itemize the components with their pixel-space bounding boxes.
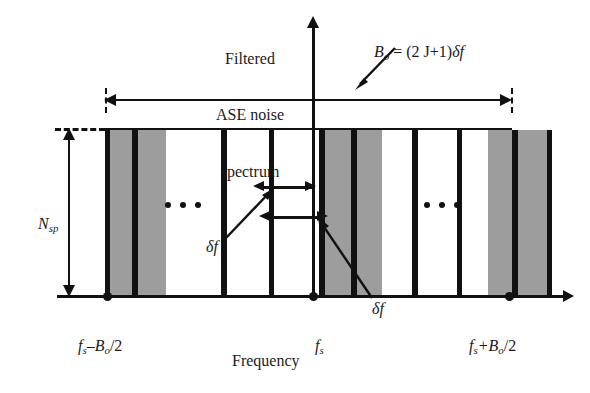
spectrum-band-gray-20 xyxy=(518,130,547,297)
tick-left-tail: /2 xyxy=(110,337,122,354)
spectrum-band-gray-1 xyxy=(110,130,132,297)
axis-tick-dot-right xyxy=(505,292,514,301)
axis-tick-dot-left xyxy=(103,292,112,301)
nsp-arrowhead-top xyxy=(63,128,75,140)
ellipsis-dot xyxy=(454,202,460,208)
tick-label-center: fs xyxy=(299,318,324,376)
bandwidth-label: Bo = (2 J+1)δf xyxy=(358,24,464,82)
ellipsis-dot xyxy=(165,202,171,208)
ellipsis-dot xyxy=(424,202,430,208)
bandwidth-arrowhead-left xyxy=(104,94,116,106)
spectrum-band-gray-18 xyxy=(488,130,512,297)
frequency-axis-label: Frequency xyxy=(232,352,300,371)
tick-label-right: fs+Bo/2 xyxy=(453,318,516,376)
nsp-symbol-subscript: sp xyxy=(49,222,59,234)
figure-canvas: Filtered ASE noise spectrum Bo = (2 J+1)… xyxy=(0,0,590,393)
spectrum-band-white-15 xyxy=(418,130,457,297)
nsp-arrowhead-bottom xyxy=(63,285,75,297)
caption-line-1: Filtered xyxy=(186,50,314,69)
nsp-span-line xyxy=(68,132,70,295)
caption-line-3: spectrum xyxy=(186,163,314,182)
delta-f-label-left: δf xyxy=(206,238,218,257)
bandwidth-formula-body: = (2 J+1) xyxy=(389,43,452,60)
frequency-axis-arrowhead xyxy=(563,290,574,302)
ellipsis-dot xyxy=(439,202,445,208)
spectrum-band-white-17 xyxy=(462,130,488,297)
tick-left-mid: –B xyxy=(87,337,105,354)
tick-label-left: fs–Bo/2 xyxy=(62,318,122,376)
nsp-label: Nsp xyxy=(22,196,58,254)
spectrum-band-gray-12 xyxy=(357,130,382,297)
bandwidth-arrowhead-right xyxy=(500,94,512,106)
caption-line-2: ASE noise xyxy=(186,106,314,125)
spectrum-band-black-21 xyxy=(547,130,552,297)
ellipsis-right xyxy=(424,202,460,208)
bandwidth-symbol: B xyxy=(374,43,384,60)
spectrum-band-gray-10 xyxy=(325,130,351,297)
spectrum-band-gray-3 xyxy=(138,130,166,297)
delta-f-arrowhead-lower-right xyxy=(317,211,328,221)
delta-f-label-right: δf xyxy=(372,300,384,319)
axis-tick-dot-center xyxy=(309,292,318,301)
figure-caption: Filtered ASE noise spectrum xyxy=(186,12,314,220)
nsp-symbol: N xyxy=(38,215,49,232)
tick-right-tail: /2 xyxy=(504,337,516,354)
bandwidth-formula-delta: δf xyxy=(452,43,464,60)
tick-center-f-sub: s xyxy=(319,344,323,356)
spectrum-band-white-13 xyxy=(382,130,412,297)
tick-right-mid: +B xyxy=(478,337,499,354)
